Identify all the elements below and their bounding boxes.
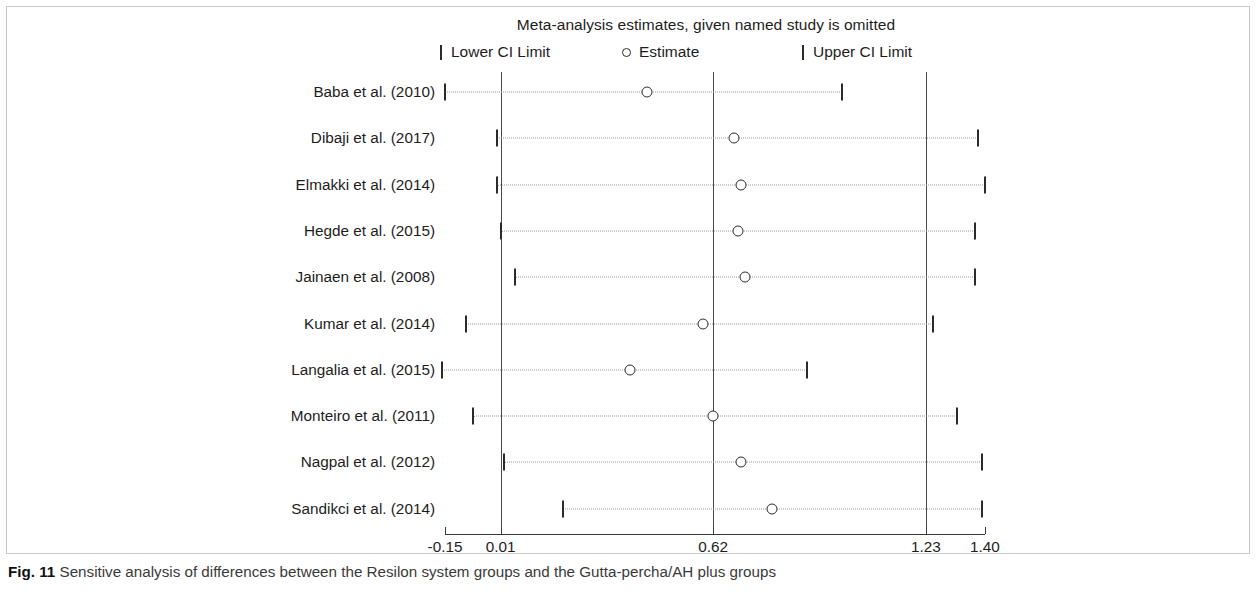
study-label: Monteiro et al. (2011)	[291, 407, 435, 425]
estimate-marker	[642, 87, 653, 98]
x-axis-tick	[985, 527, 986, 534]
estimate-marker	[624, 364, 635, 375]
study-label: Dibaji et al. (2017)	[311, 129, 435, 147]
lower-ci-cap	[500, 222, 502, 239]
study-label: Hegde et al. (2015)	[304, 222, 435, 240]
estimate-marker	[736, 457, 747, 468]
study-label: Sandikci et al. (2014)	[291, 500, 435, 518]
study-label: Baba et al. (2010)	[313, 83, 435, 101]
study-label: Elmakki et al. (2014)	[296, 176, 435, 194]
lower-ci-cap	[496, 130, 498, 147]
lower-ci-cap	[465, 315, 467, 332]
x-axis-tick	[926, 527, 927, 534]
study-label: Jainaen et al. (2008)	[296, 268, 435, 286]
x-axis-tick	[445, 527, 446, 534]
x-axis-line	[445, 534, 985, 535]
x-axis-tick-label: 1.23	[911, 538, 941, 556]
lower-ci-cap	[503, 454, 505, 471]
upper-ci-cap	[977, 130, 979, 147]
upper-ci-cap	[932, 315, 934, 332]
estimate-marker	[708, 411, 719, 422]
x-axis-tick-label: 0.01	[486, 538, 516, 556]
upper-ci-cap	[984, 176, 986, 193]
reference-line	[501, 72, 502, 534]
estimate-marker	[736, 179, 747, 190]
upper-ci-cap	[841, 84, 843, 101]
x-axis-tick-label: 0.62	[698, 538, 728, 556]
lower-ci-cap	[472, 408, 474, 425]
study-label: Nagpal et al. (2012)	[301, 453, 435, 471]
estimate-marker	[739, 272, 750, 283]
figure-root: Meta-analysis estimates, given named stu…	[0, 0, 1256, 598]
lower-ci-cap	[562, 500, 564, 517]
lower-ci-cap	[514, 269, 516, 286]
reference-line	[926, 72, 927, 534]
study-label: Langalia et al. (2015)	[291, 361, 435, 379]
upper-ci-cap	[806, 361, 808, 378]
x-axis-tick	[713, 527, 714, 534]
x-axis-tick	[501, 527, 502, 534]
figure-caption: Fig. 11 Sensitive analysis of difference…	[8, 562, 1248, 581]
figure-caption-text: Sensitive analysis of differences betwee…	[60, 563, 776, 580]
estimate-marker	[729, 133, 740, 144]
estimate-marker	[697, 318, 708, 329]
x-axis-tick-label: 1.40	[970, 538, 1000, 556]
reference-line	[713, 72, 714, 534]
figure-caption-label: Fig. 11	[8, 563, 55, 580]
upper-ci-cap	[981, 500, 983, 517]
lower-ci-cap	[496, 176, 498, 193]
upper-ci-cap	[956, 408, 958, 425]
estimate-marker	[767, 503, 778, 514]
lower-ci-cap	[444, 84, 446, 101]
estimate-marker	[732, 225, 743, 236]
upper-ci-cap	[974, 269, 976, 286]
upper-ci-cap	[981, 454, 983, 471]
x-axis-tick-label: -0.15	[428, 538, 463, 556]
upper-ci-cap	[974, 222, 976, 239]
lower-ci-cap	[441, 361, 443, 378]
plot-area: Baba et al. (2010)Dibaji et al. (2017)El…	[0, 0, 1256, 598]
study-label: Kumar et al. (2014)	[304, 315, 435, 333]
